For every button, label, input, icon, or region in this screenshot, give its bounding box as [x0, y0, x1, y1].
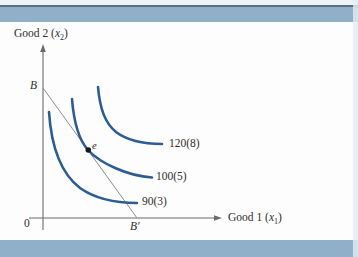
y-axis-label: Good 2 (x2)	[14, 27, 68, 44]
y-axis-label-prefix: Good 2 (	[14, 27, 55, 39]
y-axis-label-suffix: )	[64, 27, 68, 39]
figure: Good 2 (x2) Good 1 (x1) 0 B B′ e 120(8) …	[0, 0, 358, 257]
x-axis-label: Good 1 (x1)	[228, 211, 282, 228]
indifference-curve-120	[98, 87, 162, 144]
x-axis-label-suffix: )	[278, 211, 282, 223]
curve-label-100: 100(5)	[156, 170, 187, 183]
equilibrium-point-label: e	[92, 139, 97, 152]
budget-line-x-intercept-label: B′	[130, 220, 140, 233]
origin-label: 0	[24, 217, 30, 230]
x-axis-label-prefix: Good 1 (	[228, 211, 269, 223]
budget-line-y-intercept-label: B	[30, 79, 37, 92]
curve-label-90: 90(3)	[142, 195, 167, 208]
x-axis-arrow-icon	[214, 215, 222, 221]
equilibrium-point-dot	[86, 147, 92, 153]
right-edge-strip	[353, 0, 358, 257]
curve-label-120: 120(8)	[169, 137, 200, 150]
y-axis-arrow-icon	[40, 44, 46, 52]
indifference-curve-100	[72, 99, 152, 178]
